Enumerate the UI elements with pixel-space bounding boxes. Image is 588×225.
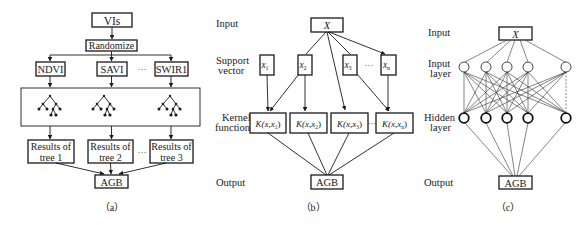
caption-c: （c） [496,202,520,213]
label-input-layer-2: layer [430,68,451,79]
results-tree-1-line1: Results of [31,141,72,152]
svg-text:K(x,xn): K(x,xn) [381,119,407,130]
results-tree-1-line2: tree 1 [40,152,63,163]
results-tree-2-line2: tree 2 [99,152,122,163]
hidden-node [502,113,512,123]
savi-label: SAVI [100,64,124,75]
input-node [502,62,512,72]
input-node [523,62,533,72]
label-output: Output [216,177,245,188]
randomize-label: Randomize [89,40,135,51]
panel-a-random-forest: VIs Randomize NDVI SAVI ··· SWIR1 [21,13,200,213]
dense-connections [464,72,566,113]
caption-b: （b） [301,202,326,213]
hidden-node [561,113,571,123]
input-node [481,62,491,72]
swir1-label: SWIR1 [156,64,188,75]
results-tree-2-line1: Results of [90,141,131,152]
input-x-label: X [511,29,519,40]
svg-text:K(x,x3): K(x,x3) [336,119,362,130]
vis-label: VIs [104,15,121,27]
forest-container [21,88,200,126]
svg-text:K(x,x1): K(x,x1) [255,119,281,130]
hidden-node [459,113,469,123]
label-output: Output [424,177,453,188]
label-input: Input [216,18,238,29]
label-hidden-layer-2: layer [430,122,451,133]
ellipsis: ··· [365,60,374,70]
results-tree-3-line1: Results of [151,141,192,152]
results-tree-3-line2: tree 3 [160,152,183,163]
input-x-label: X [323,20,331,31]
input-node [561,62,571,72]
label-vector: vector [218,65,245,76]
label-function: function [215,122,251,133]
panel-c-neural-network: Input Input layer Hidden layer Output X [424,27,571,213]
ellipsis: ··· [138,147,147,157]
svg-text:K(x,x2): K(x,x2) [295,119,321,130]
agb-output-label: AGB [100,177,122,188]
hidden-node [481,113,491,123]
label-input: Input [428,27,450,38]
ellipsis: ··· [138,64,147,74]
hidden-node [523,113,533,123]
ndvi-label: NDVI [37,64,64,75]
ellipsis: ··· [368,118,377,128]
caption-a: （a） [100,202,124,213]
panel-b-svr: Input Support vector Kernel function Out… [215,18,413,213]
figure-canvas: VIs Randomize NDVI SAVI ··· SWIR1 [0,0,588,225]
agb-output-label: AGB [316,177,338,188]
input-node [459,62,469,72]
agb-output-label: AGB [504,178,526,189]
